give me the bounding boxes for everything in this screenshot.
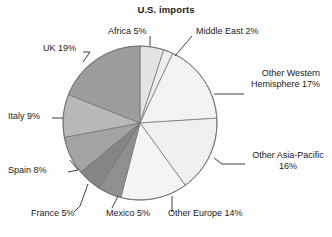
slice-label-italy: Italy 9% (8, 111, 40, 122)
leader-line-middle-east (175, 36, 192, 56)
leader-line-mexico (112, 196, 118, 208)
slice-label-africa: Africa 5% (108, 26, 147, 37)
chart-page: U.S. imports Africa 5% Middle East 2% Ot… (0, 0, 332, 237)
slice-label-other-western-hemisphere: Other Western Hemisphere 17% (246, 68, 320, 89)
slice-label-mexico: Mexico 5% (106, 208, 150, 219)
slice-label-other-asia-pacific: Other Asia-Pacific 16% (248, 150, 328, 171)
slice-label-other-western-hemisphere-line1: Other Western (262, 68, 320, 78)
slice-label-france: France 5% (31, 208, 75, 219)
leader-line-uk (83, 52, 90, 62)
slice-label-other-europe: Other Europe 14% (168, 208, 243, 219)
slice-label-other-asia-pacific-line1: Other Asia-Pacific (252, 150, 324, 160)
slice-label-uk: UK 19% (43, 43, 76, 54)
slice-label-other-asia-pacific-line2: 16% (279, 161, 297, 171)
pie-chart-graphic (0, 0, 332, 237)
slice-label-middle-east: Middle East 2% (196, 26, 259, 37)
leader-line-france (74, 184, 88, 212)
pie-slices (63, 46, 217, 200)
leader-line-other-asia-pacific (214, 158, 245, 164)
slice-label-other-western-hemisphere-line2: Hemisphere 17% (251, 79, 320, 89)
slice-label-spain: Spain 8% (8, 165, 47, 176)
